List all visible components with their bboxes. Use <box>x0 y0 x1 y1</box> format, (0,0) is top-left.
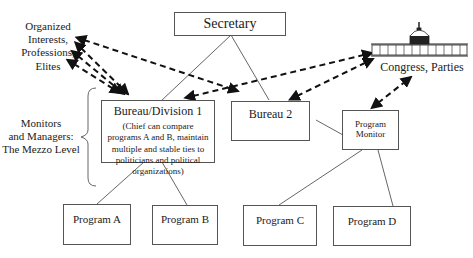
annotation-line-2: and Managers: <box>2 130 80 143</box>
bureau-2-label: Bureau 2 <box>232 107 309 122</box>
mezzo-brace <box>81 88 96 186</box>
capitol-building-icon <box>371 22 468 56</box>
mezzo-level-annotation: Monitors and Managers: The Mezzo Level <box>2 117 80 157</box>
bureau-1-label: Bureau/Division 1 <box>102 104 214 119</box>
program-d-box: Program D <box>333 206 411 246</box>
program-c-box: Program C <box>243 205 317 246</box>
secretary-label: Secretary <box>175 13 285 35</box>
program-monitor-box: Program Monitor <box>342 110 399 150</box>
program-a-label: Program A <box>64 213 130 225</box>
program-b-label: Program B <box>153 213 217 225</box>
program-a-box: Program A <box>63 204 131 245</box>
program-monitor-label-2: Monitor <box>343 129 398 139</box>
bureau-1-note: (Chief can compare programs A and B, mai… <box>102 119 214 177</box>
bureau-division-1-box: Bureau/Division 1 (Chief can compare pro… <box>101 100 215 163</box>
interests-line-4: Elites <box>18 60 78 73</box>
annotation-line-1: Monitors <box>2 117 80 130</box>
annotation-line-3: The Mezzo Level <box>2 143 80 156</box>
program-b-box: Program B <box>152 205 218 245</box>
program-monitor-label-1: Program <box>343 119 398 129</box>
organized-interests-label: Organized Interests, Professions, Elites <box>18 20 78 73</box>
interests-line-2: Interests, <box>18 33 78 46</box>
congress-parties-label: Congress, Parties <box>372 60 472 74</box>
program-c-label: Program C <box>244 214 316 226</box>
secretary-box: Secretary <box>174 12 286 36</box>
interests-line-3: Professions, <box>18 46 78 59</box>
program-d-label: Program D <box>334 215 410 227</box>
interests-line-1: Organized <box>18 20 78 33</box>
bureau-2-box: Bureau 2 <box>231 101 310 141</box>
influence-arrows <box>74 40 411 103</box>
